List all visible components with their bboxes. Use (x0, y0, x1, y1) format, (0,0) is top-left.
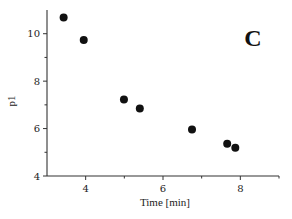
data-point (223, 140, 231, 148)
y-tick-label: 6 (34, 123, 40, 134)
x-axis-title: Time [min] (140, 196, 190, 208)
y-ticks: 46810 (27, 28, 47, 181)
panel-label: C (244, 25, 261, 51)
data-point (136, 104, 144, 112)
y-axis-title: p1 (5, 96, 17, 107)
y-tick-label: 8 (34, 76, 40, 87)
data-point (60, 14, 68, 22)
x-tick-label: 8 (237, 183, 243, 194)
y-tick-label: 10 (27, 28, 40, 39)
scatter-chart: 468 46810 Time [min] p1 C (0, 0, 292, 219)
data-points (60, 14, 240, 152)
data-point (188, 126, 196, 134)
data-point (231, 144, 239, 152)
y-tick-label: 4 (34, 171, 40, 182)
data-point (120, 95, 128, 103)
x-tick-label: 4 (82, 183, 88, 194)
data-point (80, 36, 88, 44)
x-tick-label: 6 (160, 183, 166, 194)
x-ticks: 468 (82, 176, 279, 194)
